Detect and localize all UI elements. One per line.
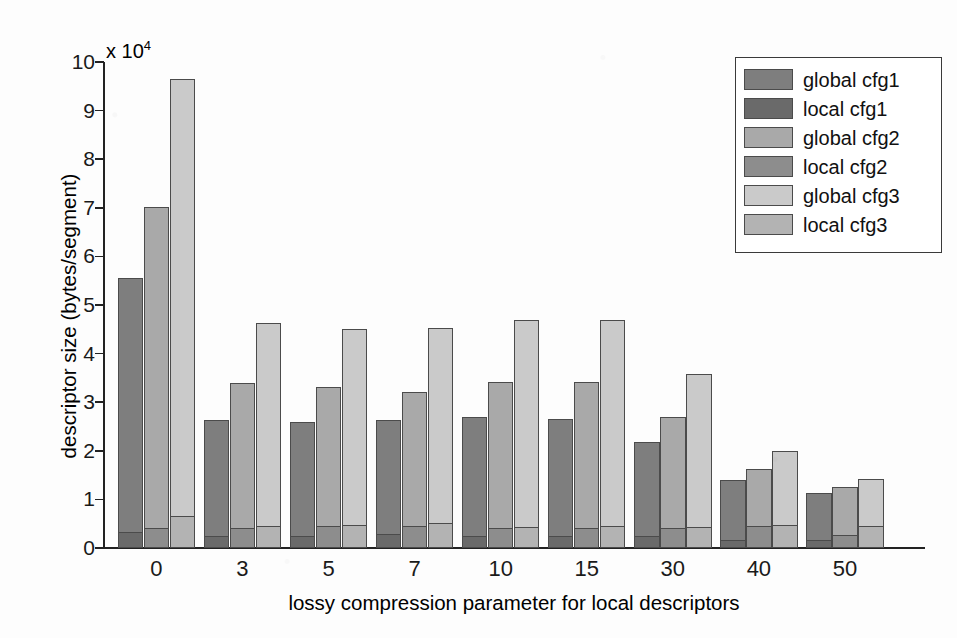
bar-segment-local <box>463 536 487 547</box>
legend-item: local cfg1 <box>744 94 933 123</box>
y-axis-multiplier-prefix: x 10 <box>106 40 144 62</box>
bar-segment-global <box>205 421 229 539</box>
bar-segment-local <box>145 528 169 547</box>
bar-segment-local <box>205 536 229 547</box>
legend-item: local cfg3 <box>744 210 933 239</box>
y-tick-label-wrap: 3 <box>0 391 95 412</box>
bar-segment-global <box>317 388 341 528</box>
y-tick-label: 1 <box>61 488 95 509</box>
bar-stack <box>858 479 884 548</box>
legend-swatch <box>744 156 793 177</box>
bar-segment-local <box>429 523 453 547</box>
y-tick-label: 7 <box>61 197 95 218</box>
bar-stack <box>634 442 660 548</box>
legend-label: local cfg3 <box>803 215 888 235</box>
bar-segment-global <box>773 452 797 527</box>
bar-segment-local <box>317 526 341 547</box>
bar-segment-global <box>429 329 453 525</box>
y-tick-label-wrap: 9 <box>0 100 95 121</box>
bar-segment-global <box>145 208 169 530</box>
y-tick-mark <box>95 110 104 112</box>
y-tick-label: 6 <box>61 245 95 266</box>
chart-figure: x 104 descriptor size (bytes/segment) 01… <box>0 0 957 638</box>
y-tick-label-wrap: 4 <box>0 343 95 364</box>
x-tick-label: 10 <box>471 556 531 582</box>
y-tick-label: 8 <box>61 148 95 169</box>
legend-swatch <box>744 214 793 235</box>
x-tick-label: 0 <box>126 556 186 582</box>
y-tick-mark <box>95 158 104 160</box>
x-tick-label: 7 <box>385 556 445 582</box>
bar-stack <box>342 329 368 548</box>
legend-item: global cfg2 <box>744 123 933 152</box>
bar-segment-local <box>489 528 513 547</box>
bar-stack <box>402 392 428 548</box>
y-tick-label: 4 <box>61 343 95 364</box>
bar-segment-global <box>661 418 685 530</box>
y-tick-mark <box>95 207 104 209</box>
bar-segment-local <box>377 534 401 547</box>
y-tick-mark <box>95 547 104 549</box>
bar-stack <box>118 278 144 548</box>
x-axis-label: lossy compression parameter for local de… <box>103 591 925 615</box>
bar-segment-local <box>773 525 797 547</box>
bar-segment-global <box>549 420 573 539</box>
legend-items: global cfg1local cfg1global cfg2local cf… <box>744 65 933 239</box>
x-tick-label: 50 <box>815 556 875 582</box>
legend-item: global cfg3 <box>744 181 933 210</box>
bar-segment-global <box>291 423 315 539</box>
y-tick-label-wrap: 10 <box>0 51 95 72</box>
bar-segment-local <box>661 528 685 547</box>
y-tick-mark <box>95 450 104 452</box>
bar-segment-local <box>807 540 831 547</box>
bar-segment-local <box>231 528 255 547</box>
legend-label: global cfg2 <box>803 128 900 148</box>
bar-segment-global <box>463 418 487 538</box>
y-tick-label: 3 <box>61 391 95 412</box>
y-tick-mark <box>95 61 104 63</box>
bar-segment-local <box>859 526 883 547</box>
bar-segment-local <box>291 536 315 547</box>
bar-segment-local <box>575 528 599 547</box>
y-tick-label-wrap: 8 <box>0 148 95 169</box>
bar-stack <box>806 493 832 548</box>
legend-label: local cfg2 <box>803 157 888 177</box>
legend-label: local cfg1 <box>803 99 888 119</box>
bar-segment-global <box>747 470 771 527</box>
y-tick-label: 0 <box>61 537 95 558</box>
y-tick-mark <box>95 304 104 306</box>
bar-stack <box>686 374 712 548</box>
legend-label: global cfg3 <box>803 186 900 206</box>
bar-stack <box>832 487 858 548</box>
bar-segment-local <box>515 527 539 547</box>
bar-segment-global <box>403 393 427 528</box>
bar-segment-local <box>601 526 625 547</box>
y-tick-mark <box>95 256 104 258</box>
legend-swatch <box>744 69 793 90</box>
bar-stack <box>488 382 514 548</box>
x-tick-label: 30 <box>643 556 703 582</box>
bar-stack <box>428 328 454 548</box>
legend-swatch <box>744 127 793 148</box>
legend-item: local cfg2 <box>744 152 933 181</box>
bar-stack <box>290 422 316 548</box>
bar-stack <box>230 383 256 548</box>
bar-segment-global <box>575 383 599 530</box>
x-tick-label: 40 <box>729 556 789 582</box>
y-tick-label: 2 <box>61 440 95 461</box>
bar-segment-global <box>515 321 539 529</box>
y-axis-multiplier-exponent: 4 <box>144 38 151 53</box>
bar-stack <box>772 451 798 548</box>
y-tick-label: 10 <box>61 51 95 72</box>
bar-segment-global <box>807 494 831 543</box>
y-tick-mark <box>95 401 104 403</box>
y-tick-mark <box>95 499 104 501</box>
bar-segment-local <box>343 525 367 547</box>
bar-segment-local <box>171 516 195 547</box>
bar-segment-local <box>721 540 745 547</box>
bar-segment-global <box>231 384 255 530</box>
bar-stack <box>204 420 230 548</box>
bar-segment-local <box>833 535 857 547</box>
bar-segment-global <box>859 480 883 529</box>
bar-stack <box>462 417 488 548</box>
